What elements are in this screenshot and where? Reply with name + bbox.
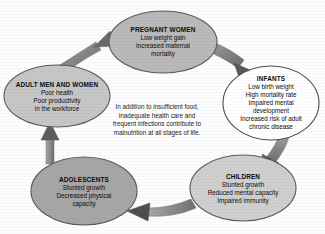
center-note-line: In addition to insufficient food, [96,103,218,112]
arrow-adolescents-to-adults [41,122,59,164]
node-children[interactable]: CHILDREN Stunted growth Reduced mental c… [191,170,295,208]
node-line: Reduced mental capacity [208,189,279,197]
malnutrition-cycle-diagram: PREGNANT WOMEN Low weight gain Increased… [0,0,325,234]
node-line: Impaired mental [248,99,293,107]
node-line: Increased maternal [136,42,190,50]
node-line: Decreased physical [57,192,112,200]
node-line: Stunted growth [63,184,105,192]
node-line: High mortality rate [245,91,296,99]
node-line: capacity [72,200,95,208]
node-line: Increased risk of adult [240,115,302,123]
node-infants[interactable]: INFANTS Low birth weight High mortality … [223,68,319,138]
node-line: mortality [151,50,175,58]
node-line: Impaired immunity [217,197,268,205]
center-note-line: frequent infections contribute to [96,120,218,129]
node-title-pregnant-women: PREGNANT WOMEN [131,26,196,34]
node-line: Poor health [41,89,73,97]
center-note: In addition to insufficient food, inadeq… [96,103,218,137]
node-line: Stunted growth [222,181,264,189]
node-line: development [253,107,289,115]
node-line: Low birth weight [248,83,294,91]
node-line: Low weight gain [140,34,185,42]
node-line: Poor productivity [34,97,81,105]
node-line: in the workforce [35,105,79,113]
node-title-infants: INFANTS [257,75,285,83]
arrow-children-to-adolescents [127,199,196,221]
node-pregnant-women[interactable]: PREGNANT WOMEN Low weight gain Increased… [109,13,217,71]
node-adolescents[interactable]: ADOLESCENTS Stunted growth Decreased phy… [32,172,136,212]
center-note-line: malnutrition at all stages of life. [96,129,218,138]
center-note-line: inadequate health care and [96,112,218,121]
node-title-adult-men-and-women: ADULT MEN AND WOMEN [16,81,98,89]
node-adult-men-and-women[interactable]: ADULT MEN AND WOMEN Poor health Poor pro… [3,78,111,116]
node-title-children: CHILDREN [226,173,260,181]
node-line: chronic disease [249,123,293,131]
node-title-adolescents: ADOLESCENTS [59,176,109,184]
